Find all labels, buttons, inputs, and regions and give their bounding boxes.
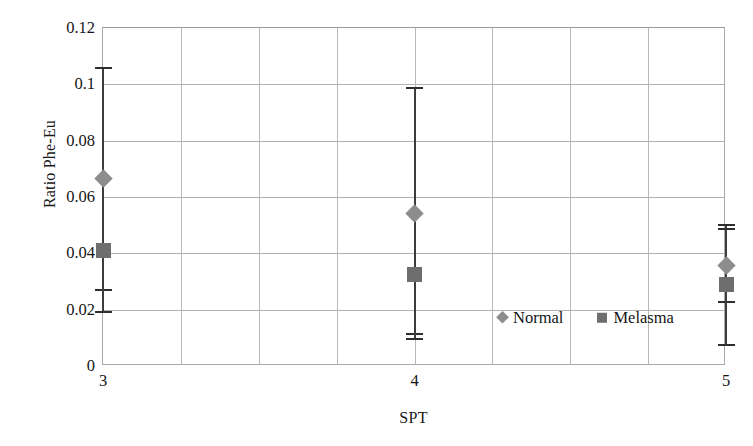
data-point-normal[interactable] xyxy=(94,169,112,187)
legend-item-normal[interactable]: Normal xyxy=(498,309,563,326)
plot-area: 00.020.040.060.080.10.12 345 NormalMelas… xyxy=(102,27,725,365)
data-point-melasma[interactable] xyxy=(719,277,734,292)
y-tick-label: 0.08 xyxy=(15,132,95,149)
legend-item-melasma[interactable]: Melasma xyxy=(597,309,673,326)
y-tick-label: 0.1 xyxy=(15,76,95,93)
error-bar-cap xyxy=(718,344,735,346)
chart-figure: Ratio Phe-Eu 00.020.040.060.080.10.12 34… xyxy=(0,0,753,446)
legend-label: Normal xyxy=(513,309,563,326)
square-marker-icon xyxy=(597,313,607,323)
data-point-melasma[interactable] xyxy=(407,267,422,282)
y-tick-label: 0.02 xyxy=(15,301,95,318)
x-tick-label: 5 xyxy=(706,373,746,390)
error-bar-line xyxy=(102,67,104,311)
data-point-normal[interactable] xyxy=(405,204,423,222)
x-tick-label: 3 xyxy=(83,373,123,390)
error-bar-cap xyxy=(95,311,112,313)
y-tick-label: 0.04 xyxy=(15,245,95,262)
chart-legend: NormalMelasma xyxy=(498,309,674,326)
legend-label: Melasma xyxy=(613,309,673,326)
gridline-vertical xyxy=(492,28,493,364)
y-tick-label: 0.06 xyxy=(15,189,95,206)
error-bar-cap xyxy=(718,224,735,226)
data-point-melasma[interactable] xyxy=(96,243,111,258)
gridline-vertical xyxy=(259,28,260,364)
x-tick-label: 4 xyxy=(395,373,435,390)
error-bar-cap xyxy=(718,228,735,230)
error-bar-cap xyxy=(406,338,423,340)
error-bar-cap xyxy=(406,87,423,89)
y-tick-label: 0 xyxy=(15,358,95,375)
error-bar-cap xyxy=(95,67,112,69)
gridline-vertical xyxy=(337,28,338,364)
diamond-marker-icon xyxy=(496,311,509,324)
data-point-normal[interactable] xyxy=(717,256,735,274)
y-tick-label: 0.12 xyxy=(15,20,95,37)
gridline-vertical xyxy=(181,28,182,364)
gridline-horizontal xyxy=(103,84,724,85)
x-axis-title: SPT xyxy=(102,409,725,427)
